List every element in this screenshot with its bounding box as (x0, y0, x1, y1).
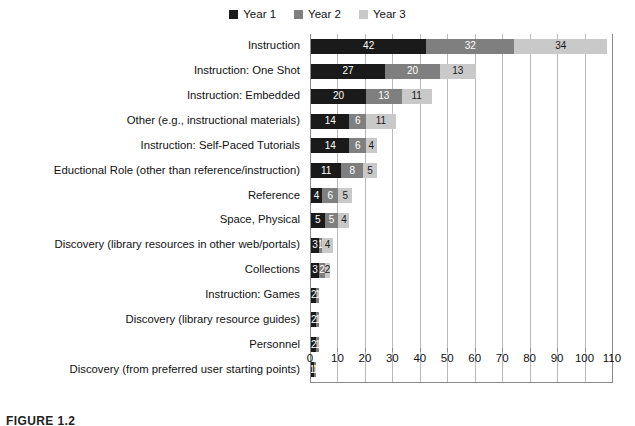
category-label: Discovery (library resource guides) (125, 314, 300, 325)
bar-segment[interactable]: 14 (311, 114, 349, 129)
bar-value-label: 3 (312, 265, 318, 275)
axis-tick-label: 100 (575, 352, 594, 364)
bar-row[interactable]: 21 (311, 288, 319, 303)
bar-segment[interactable]: 5 (363, 163, 377, 178)
bar-row[interactable]: 322 (311, 263, 330, 278)
axis-tick-label: 10 (331, 352, 344, 364)
bar-value-label: 11 (321, 166, 331, 176)
legend-label-year-1: Year 1 (243, 8, 276, 20)
bar-value-label: 5 (329, 215, 335, 225)
bar-value-label: 20 (333, 91, 344, 101)
bar-segment[interactable]: 4 (366, 138, 377, 153)
bar-value-label: 14 (325, 141, 336, 151)
gridline (502, 34, 503, 382)
axis-tick-label: 70 (496, 352, 509, 364)
bar-segment[interactable]: 1 (316, 288, 319, 303)
gridline (392, 34, 393, 382)
bar-segment[interactable]: 5 (338, 188, 352, 203)
bar-segment[interactable]: 6 (349, 138, 365, 153)
bar-value-label: 5 (367, 166, 373, 176)
bar-value-label: 20 (407, 66, 418, 76)
bar-segment[interactable]: 3 (311, 238, 319, 253)
bar-row[interactable]: 314 (311, 238, 333, 253)
bar-value-label: 2 (325, 265, 330, 275)
bar-segment[interactable]: 1 (316, 337, 319, 352)
bar-row[interactable]: 465 (311, 188, 352, 203)
bar-segment[interactable]: 2 (325, 263, 330, 278)
bar-value-label: 6 (355, 116, 361, 126)
gridline (557, 34, 558, 382)
category-label: Instruction: Embedded (187, 90, 300, 101)
bar-segment[interactable]: 6 (349, 114, 365, 129)
bar-value-label: 11 (411, 91, 421, 101)
bar-value-label: 1 (316, 315, 319, 325)
bar-value-label: 3 (312, 240, 318, 250)
axis-tick-label: 80 (523, 352, 536, 364)
bar-row[interactable]: 1185 (311, 163, 377, 178)
legend-label-year-2: Year 2 (308, 8, 341, 20)
axis-tick-label: 0 (307, 352, 313, 364)
bar-segment[interactable]: 11 (311, 163, 341, 178)
category-label: Space, Physical (220, 215, 300, 226)
bar-value-label: 13 (378, 91, 389, 101)
bar-row[interactable]: 1464 (311, 138, 377, 153)
stacked-bar-chart: InstructionInstruction: One ShotInstruct… (0, 34, 635, 390)
bar-segment[interactable]: 14 (311, 138, 349, 153)
bar-segment[interactable]: 3 (311, 263, 319, 278)
bar-segment[interactable]: 4 (338, 213, 349, 228)
bar-segment[interactable]: 4 (322, 238, 333, 253)
bar-value-label: 8 (349, 166, 355, 176)
gridline (475, 34, 476, 382)
bar-value-label: 4 (369, 141, 375, 151)
bar-value-label: 27 (343, 66, 354, 76)
legend-label-year-3: Year 3 (373, 8, 406, 20)
bar-segment[interactable]: 5 (311, 213, 325, 228)
gridline (612, 34, 613, 382)
category-label: Instruction (248, 41, 300, 52)
bar-segment[interactable]: 1 (316, 312, 319, 327)
gridline (585, 34, 586, 382)
bar-value-label: 11 (376, 116, 386, 126)
bar-row[interactable]: 14611 (311, 114, 396, 129)
bar-segment[interactable]: 11 (366, 114, 396, 129)
bar-segment[interactable]: 4 (311, 188, 322, 203)
category-label: Discovery (from preferred user starting … (70, 364, 300, 375)
value-axis-ticks: 0102030405060708090100110 (310, 352, 612, 372)
gridline (365, 34, 366, 382)
bar-segment[interactable]: 11 (402, 89, 432, 104)
bar-segment[interactable]: 5 (325, 213, 339, 228)
bar-segment[interactable]: 13 (440, 64, 476, 79)
bar-row[interactable]: 21 (311, 312, 319, 327)
bar-value-label: 32 (465, 41, 476, 51)
figure-caption: FIGURE 1.2 (6, 414, 75, 426)
gridline (447, 34, 448, 382)
legend-item-year-1: Year 1 (229, 8, 276, 20)
category-label: Collections (245, 264, 300, 275)
axis-tick-label: 30 (386, 352, 399, 364)
bar-row[interactable]: 21 (311, 337, 319, 352)
legend-swatch-year-3 (359, 10, 368, 19)
bar-segment[interactable]: 8 (341, 163, 363, 178)
bar-segment[interactable]: 27 (311, 64, 385, 79)
bar-value-label: 4 (341, 215, 347, 225)
bar-value-label: 4 (314, 191, 320, 201)
bar-segment[interactable]: 42 (311, 39, 426, 54)
axis-tick-label: 20 (359, 352, 372, 364)
bar-row[interactable]: 554 (311, 213, 349, 228)
bar-value-label: 42 (363, 41, 374, 51)
bar-row[interactable]: 272013 (311, 64, 476, 79)
category-label: Instruction: Self-Paced Tutorials (141, 140, 301, 151)
bar-row[interactable]: 423234 (311, 39, 607, 54)
bar-segment[interactable]: 6 (322, 188, 338, 203)
bar-value-label: 34 (555, 41, 566, 51)
bar-row[interactable]: 201311 (311, 89, 432, 104)
bar-segment[interactable]: 20 (311, 89, 366, 104)
chart-legend: Year 1 Year 2 Year 3 (0, 8, 635, 20)
gridline (337, 34, 338, 382)
bar-segment[interactable]: 20 (385, 64, 440, 79)
bar-segment[interactable]: 34 (514, 39, 607, 54)
axis-tick-label: 40 (413, 352, 426, 364)
axis-tick-label: 60 (468, 352, 481, 364)
bar-segment[interactable]: 13 (366, 89, 402, 104)
bar-segment[interactable]: 32 (426, 39, 514, 54)
